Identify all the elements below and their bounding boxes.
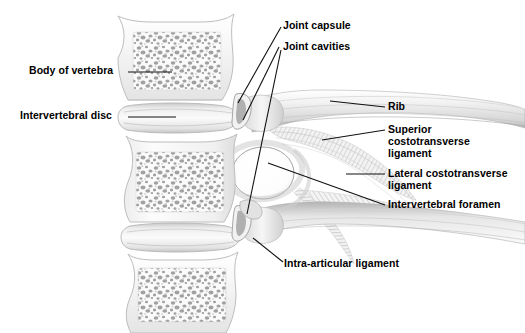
- trabecular-bone-2: [136, 152, 224, 212]
- intervertebral-disc-2: [121, 223, 241, 252]
- label-intra-articular-ligament: Intra-articular ligament: [284, 258, 399, 270]
- label-superior-costotransverse-ligament-line1: Superior: [388, 124, 432, 136]
- intervertebral-disc-1: [118, 103, 240, 133]
- label-body-of-vertebra: Body of vertebra: [29, 65, 113, 77]
- label-joint-cavities: Joint cavities: [283, 41, 350, 53]
- trabecular-bone-3: [138, 268, 226, 322]
- label-rib: Rib: [388, 101, 405, 113]
- vertebral-bodies: [118, 14, 241, 333]
- label-lateral-costotransverse-ligament-line1: Lateral costotransverse: [388, 168, 508, 180]
- label-superior-costotransverse-ligament-line3: ligament: [388, 148, 432, 160]
- trabecular-bone-1: [133, 32, 221, 90]
- label-superior-costotransverse-ligament-line2: costotransverse: [388, 136, 470, 148]
- label-intervertebral-disc: Intervertebral disc: [20, 110, 112, 122]
- anatomy-figure: Body of vertebra Intervertebral disc Joi…: [0, 0, 525, 333]
- label-intervertebral-foramen: Intervertebral foramen: [388, 199, 501, 211]
- label-joint-capsule: Joint capsule: [283, 20, 351, 32]
- label-lateral-costotransverse-ligament-line2: ligament: [388, 180, 432, 192]
